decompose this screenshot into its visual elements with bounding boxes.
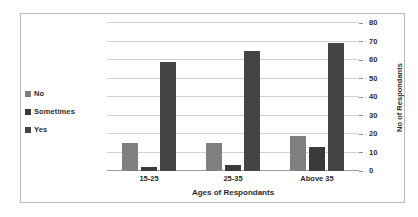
legend-item-label: Sometimes: [34, 107, 75, 116]
chart-frame: NoSometimesYes 01020304050607080 No of R…: [20, 13, 405, 203]
y-axis-tick-label: 60: [369, 56, 377, 64]
bar-group: [275, 23, 359, 171]
chart-legend: NoSometimesYes: [25, 86, 97, 140]
bar[interactable]: [328, 43, 344, 171]
x-axis-tick-label: 15-25: [107, 174, 191, 183]
bar-groups: [107, 23, 359, 171]
tick-mark-icon: [359, 134, 363, 135]
tick-mark-icon: [359, 152, 363, 153]
plot-area: [107, 23, 359, 171]
tick-mark-icon: [359, 41, 363, 42]
y-axis-title: No of Respondants: [392, 23, 406, 171]
legend-item[interactable]: Sometimes: [25, 104, 97, 119]
y-axis-tick-label: 80: [369, 19, 377, 27]
x-axis-tick-label: Above 35: [275, 174, 359, 183]
y-axis-tick-label: 0: [369, 167, 373, 175]
bar-group: [191, 23, 275, 171]
tick-mark-icon: [359, 97, 363, 98]
legend-item[interactable]: Yes: [25, 122, 97, 137]
y-axis-tick-label: 50: [369, 75, 377, 83]
y-axis-tick-label: 20: [369, 130, 377, 138]
tick-mark-icon: [359, 23, 363, 24]
bar[interactable]: [309, 147, 325, 171]
bar[interactable]: [122, 143, 138, 171]
legend-item[interactable]: No: [25, 86, 97, 101]
x-axis-title: Ages of Respondants: [107, 188, 359, 197]
y-axis-tick-label: 40: [369, 93, 377, 101]
y-axis-tick-label: 70: [369, 38, 377, 46]
x-axis-tick-label: 25-35: [191, 174, 275, 183]
bar-group: [107, 23, 191, 171]
legend-swatch-icon: [25, 91, 31, 97]
legend-item-label: No: [34, 89, 44, 98]
tick-mark-icon: [359, 78, 363, 79]
bar[interactable]: [290, 136, 306, 171]
y-axis: 01020304050607080: [359, 23, 393, 171]
legend-swatch-icon: [25, 109, 31, 115]
bar[interactable]: [160, 62, 176, 171]
legend-item-label: Yes: [34, 125, 47, 134]
bar[interactable]: [206, 143, 222, 171]
y-axis-title-label: No of Respondants: [395, 63, 404, 132]
bar[interactable]: [244, 51, 260, 171]
x-axis-tick-labels: 15-2525-35Above 35: [107, 174, 359, 183]
y-axis-tick-label: 10: [369, 149, 377, 157]
tick-mark-icon: [359, 171, 363, 172]
tick-mark-icon: [359, 115, 363, 116]
tick-mark-icon: [359, 60, 363, 61]
legend-swatch-icon: [25, 127, 31, 133]
y-axis-tick-label: 30: [369, 112, 377, 120]
bar[interactable]: [141, 167, 157, 171]
bar[interactable]: [225, 165, 241, 171]
